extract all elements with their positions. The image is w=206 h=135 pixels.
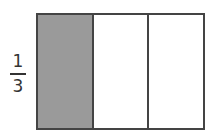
fraction-label: 1 3	[9, 53, 27, 95]
rectangle-part-2	[92, 15, 148, 128]
rectangle-part-3	[147, 15, 203, 128]
fraction-denominator: 3	[9, 78, 27, 95]
fraction-numerator: 1	[9, 53, 27, 70]
fraction-bar	[10, 73, 26, 75]
rectangle-part-1-shaded	[38, 15, 92, 128]
fraction-rectangle	[36, 13, 205, 130]
